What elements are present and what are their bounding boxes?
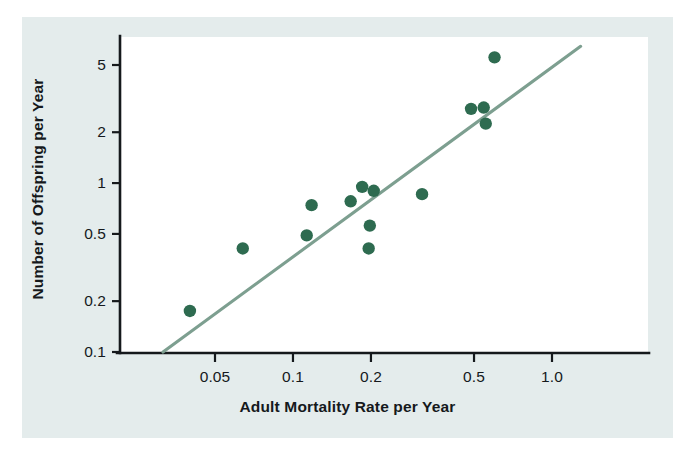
data-point-0-13 — [488, 51, 500, 63]
data-points-group — [184, 51, 501, 317]
trend-line — [163, 46, 581, 352]
data-point-0-8 — [368, 185, 380, 197]
data-point-0-11 — [478, 101, 490, 113]
y-tick-label-3: 0.5 — [48, 225, 106, 243]
x-tick-label-3: 0.5 — [463, 368, 485, 386]
data-point-0-12 — [480, 117, 492, 129]
data-point-0-3 — [305, 199, 317, 211]
data-point-0-4 — [344, 195, 356, 207]
x-axis-title: Adult Mortality Rate per Year — [0, 398, 695, 416]
data-point-0-9 — [416, 188, 428, 200]
y-tick-label-5: 0.1 — [48, 343, 106, 361]
data-point-0-7 — [364, 219, 376, 231]
x-tick-label-4: 1.0 — [541, 368, 563, 386]
data-point-0-10 — [465, 103, 477, 115]
y-tick-label-1: 2 — [48, 123, 106, 141]
y-tick-label-0: 5 — [48, 56, 106, 74]
data-point-0-0 — [184, 305, 196, 317]
y-axis-title: Number of Offspring per Year — [29, 24, 53, 354]
data-point-0-2 — [301, 229, 313, 241]
data-point-0-5 — [356, 181, 368, 193]
y-tick-label-2: 1 — [48, 174, 106, 192]
x-tick-label-2: 0.2 — [360, 368, 382, 386]
figure-root: 5210.50.20.1 0.050.10.20.51.0 Adult Mort… — [0, 0, 695, 454]
y-tick-label-4: 0.2 — [48, 292, 106, 310]
data-point-0-1 — [237, 242, 249, 254]
x-tick-label-1: 0.1 — [282, 368, 304, 386]
x-tick-label-0: 0.05 — [200, 368, 231, 386]
data-point-0-6 — [362, 242, 374, 254]
trend-line-group — [163, 46, 581, 352]
